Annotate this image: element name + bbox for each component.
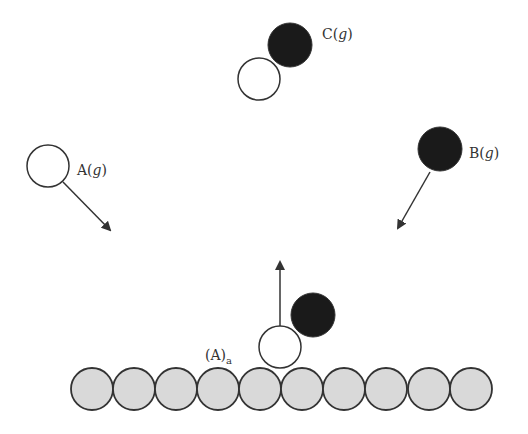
b-approach-arrow-icon	[398, 172, 430, 228]
surface-atom	[408, 368, 450, 410]
a-gas-molecule: A(g)	[27, 145, 110, 230]
surface-atom	[365, 368, 407, 410]
surface-reaction-diagram: C(g) A(g) B(g) (A)a	[0, 0, 528, 434]
c-filled-atom	[268, 23, 312, 67]
surface-atom	[197, 368, 239, 410]
a-adsorbed-atom	[259, 326, 301, 368]
a-adsorbed-label: (A)a	[205, 347, 232, 366]
surface-atom	[113, 368, 155, 410]
surface-atom	[450, 368, 492, 410]
catalyst-surface	[71, 368, 492, 410]
b-gas-atom	[418, 127, 462, 171]
surface-atom	[155, 368, 197, 410]
c-gas-molecule: C(g)	[238, 23, 353, 100]
surface-atom	[71, 368, 113, 410]
b-reacting-atom	[291, 293, 335, 337]
a-gas-label: A(g)	[76, 162, 107, 178]
b-gas-label: B(g)	[469, 145, 499, 161]
c-open-atom	[238, 58, 280, 100]
diagram-svg: C(g) A(g) B(g) (A)a	[0, 0, 528, 434]
b-gas-molecule: B(g)	[398, 127, 499, 228]
surface-atom	[323, 368, 365, 410]
a-adsorption-arrow-icon	[63, 182, 110, 230]
c-gas-label: C(g)	[322, 26, 353, 42]
adsorbed-complex: (A)a	[205, 262, 335, 368]
a-gas-atom	[27, 145, 69, 187]
surface-atom	[281, 368, 323, 410]
surface-atom	[239, 368, 281, 410]
